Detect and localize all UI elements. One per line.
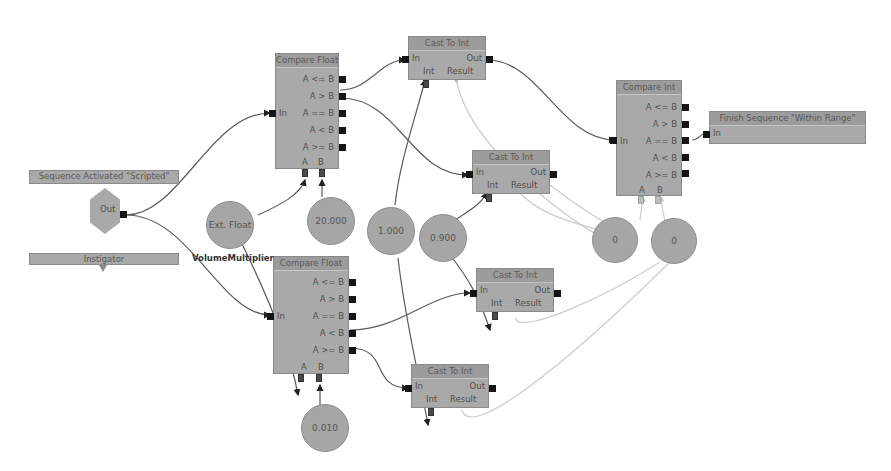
a-label: A [301,361,307,373]
wire-0900-to-cast2-int[interactable] [455,193,487,220]
finish-sequence-node[interactable]: Finish Sequence "Within Range" In [709,111,866,144]
variable-value: 0.010 [312,423,338,433]
wire-cf-top-le-to-cast1[interactable] [340,60,405,90]
in-label: In [620,135,628,147]
out-label: Out [467,52,482,64]
ci-out-ge-pin[interactable] [682,170,689,177]
output-label: A > B [653,118,677,130]
variable-value: 20.000 [315,216,347,226]
cast4-in-pin[interactable] [405,385,412,392]
output-label: A >= B [303,141,334,153]
event-out-pin[interactable] [120,211,127,218]
node-title: Finish Sequence "Within Range" [710,112,865,126]
out-label: Out [470,380,485,392]
cf-top-out-le-pin[interactable] [339,76,346,83]
cast2-int-pin[interactable] [486,194,492,202]
cf-bot-out-ge-pin[interactable] [349,347,356,354]
output-label: A < B [310,124,334,136]
finish-in-pin[interactable] [703,131,710,138]
result-label: Result [450,393,476,405]
output-label: A >= B [313,344,344,356]
wire-cf-bot-ge-to-cast4[interactable] [350,348,408,388]
wire-cast1-to-compare-int[interactable] [487,60,615,140]
cf-bot-out-lt-pin[interactable] [349,330,356,337]
variable-value: Ext. Float [209,220,252,230]
node-title: Cast To Int [412,365,488,379]
node-title: Cast To Int [477,269,553,283]
cf-top-out-lt-pin[interactable] [339,127,346,134]
wire-cf-top-gt-to-cast2[interactable] [340,98,468,175]
cf-bot-out-gt-pin[interactable] [349,296,356,303]
compare-int-node[interactable]: Compare Int In A <= B A > B A == B A < B… [616,80,682,196]
ci-b-pin[interactable] [655,196,661,204]
ci-a-pin[interactable] [638,196,644,204]
instigator-pin[interactable] [99,265,107,272]
b-label: B [657,184,663,196]
cf-top-a-pin[interactable] [302,169,308,177]
node-title: Compare Float [276,54,338,68]
node-title: Compare Float [274,257,348,271]
cast1-out-pin[interactable] [486,56,493,63]
int-label: Int [423,65,434,77]
cast2-in-pin[interactable] [466,171,473,178]
cast1-in-pin[interactable] [402,56,409,63]
cast4-int-pin[interactable] [428,408,434,416]
variable-value: 0 [612,235,618,245]
cast3-in-pin[interactable] [470,290,477,297]
constant-0010[interactable]: 0.010 [301,404,349,452]
cf-bot-out-eq-pin[interactable] [349,313,356,320]
output-label: A >= B [646,169,677,181]
cf-top-b-pin[interactable] [319,169,325,177]
cf-bot-a-pin[interactable] [298,374,304,382]
ci-out-lt-pin[interactable] [682,154,689,161]
wire-event-to-compare-top[interactable] [126,113,270,215]
cast-to-int-node-4[interactable]: Cast To Int In Out Int Result [411,364,489,408]
cf-bot-in-pin[interactable] [267,313,274,320]
int-label: Int [487,179,498,191]
compare-float-node-bottom[interactable]: Compare Float In A <= B A > B A == B A <… [273,256,349,374]
variable-name-label: VolumeMultiplier [192,253,274,263]
int-variable-a[interactable]: 0 [592,217,638,263]
cast1-int-pin[interactable] [423,80,429,88]
ci-in-pin[interactable] [610,137,617,144]
cast-to-int-node-2[interactable]: Cast To Int In Out Int Result [472,150,550,194]
constant-1000[interactable]: 1.000 [367,207,415,255]
output-label: A <= B [303,73,334,85]
in-label: In [476,166,484,178]
cf-top-out-eq-pin[interactable] [339,110,346,117]
int-variable-b[interactable]: 0 [651,218,697,264]
cast3-out-pin[interactable] [554,290,561,297]
event-title-bar[interactable]: Sequence Activated "Scripted" [29,170,179,184]
cf-bot-out-le-pin[interactable] [349,279,356,286]
ci-out-eq-pin[interactable] [682,137,689,144]
b-label: B [318,156,324,168]
wire-cast2-result-b[interactable] [550,185,605,222]
cf-top-out-ge-pin[interactable] [339,144,346,151]
wire-cf-bot-lt-to-cast3[interactable] [350,293,470,330]
cf-top-out-gt-pin[interactable] [339,93,346,100]
event-out-label: Out [100,203,115,215]
compare-float-node-top[interactable]: Compare Float In A <= B A > B A == B A <… [275,53,339,169]
a-label: A [639,184,645,196]
ci-out-gt-pin[interactable] [682,121,689,128]
cf-bot-b-pin[interactable] [316,374,322,382]
output-label: A <= B [646,101,677,113]
cast4-out-pin[interactable] [489,385,496,392]
result-label: Result [447,65,473,77]
ci-out-le-pin[interactable] [682,104,689,111]
constant-0900[interactable]: 0.900 [419,214,467,262]
cf-top-in-pin[interactable] [269,110,276,117]
node-title: Cast To Int [409,37,485,51]
instigator-bar[interactable]: Instigator [29,253,179,265]
cast3-int-pin[interactable] [492,312,498,320]
constant-20000[interactable]: 20.000 [307,197,355,245]
result-label: Result [511,179,537,191]
wire-extfloat-to-cf-top-a[interactable] [258,180,305,215]
cast2-out-pin[interactable] [550,171,557,178]
cast-to-int-node-1[interactable]: Cast To Int In Out Int Result [408,36,486,80]
cast-to-int-node-3[interactable]: Cast To Int In Out Int Result [476,268,554,312]
in-label: In [277,310,285,322]
ext-float-variable[interactable]: Ext. Float [206,201,254,249]
int-label: Int [426,393,437,405]
output-label: A == B [313,310,344,322]
